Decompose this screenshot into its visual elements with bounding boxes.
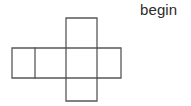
begin-label: begin [140,1,177,18]
figure-canvas: begin [0,0,191,106]
cube-net-fold-lines-group [35,48,97,78]
